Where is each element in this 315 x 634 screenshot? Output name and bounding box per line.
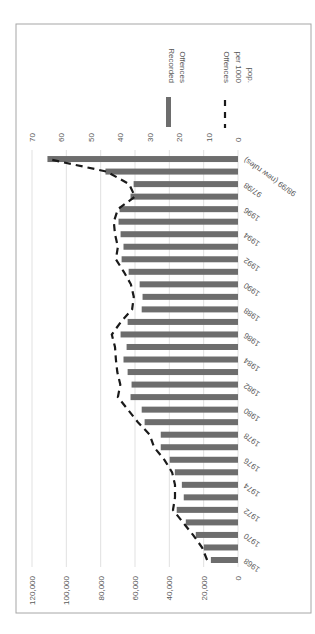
bar [204, 544, 238, 550]
offences-chart: 020,00040,00060,00080,000100,000120,000 … [0, 0, 315, 634]
bar [211, 557, 238, 563]
primary-tick-label: 0 [234, 575, 243, 580]
bar [47, 156, 238, 162]
bar [186, 519, 238, 525]
secondary-tick-label: 20 [175, 133, 184, 142]
legend-line-label-3: pop. [246, 67, 255, 83]
bar [170, 457, 238, 463]
secondary-tick-label: 40 [116, 133, 125, 142]
bar [129, 269, 238, 275]
bar [123, 357, 238, 363]
primary-tick-label: 60,000 [131, 575, 140, 600]
bar [128, 369, 238, 375]
bar [142, 306, 238, 312]
bar [182, 482, 238, 488]
primary-tick-label: 100,000 [62, 575, 71, 604]
bar [175, 469, 238, 475]
bar [184, 494, 238, 500]
bar [127, 344, 238, 350]
bar [122, 256, 238, 262]
bar [119, 219, 238, 225]
bar [121, 231, 238, 237]
legend-line-label-2: per 1000 [234, 51, 243, 83]
bar [196, 532, 238, 538]
bar [143, 294, 238, 300]
bar [134, 181, 238, 187]
bar [132, 382, 238, 388]
chart-frame [16, 24, 311, 613]
legend-bar-swatch [166, 97, 171, 127]
bar [123, 244, 238, 250]
bar [142, 407, 238, 413]
primary-tick-label: 20,000 [200, 575, 209, 600]
secondary-tick-label: 50 [87, 133, 96, 142]
bar [177, 507, 238, 513]
secondary-tick-label: 70 [28, 133, 37, 142]
secondary-tick-label: 30 [146, 133, 155, 142]
secondary-tick-label: 0 [234, 137, 243, 142]
bar [121, 331, 238, 337]
bar [140, 281, 238, 287]
primary-tick-label: 120,000 [28, 575, 37, 604]
legend-bar-label-2: Offences [178, 51, 187, 83]
bar [161, 444, 238, 450]
bar [145, 419, 238, 425]
bar [161, 432, 238, 438]
secondary-tick-label: 10 [205, 133, 214, 142]
legend-line-label-1: Offences [222, 51, 231, 83]
bar [128, 319, 238, 325]
legend-bar-label-1: Recorded [167, 48, 176, 83]
primary-tick-label: 80,000 [97, 575, 106, 600]
bar [131, 194, 238, 200]
bar [120, 206, 238, 212]
bar [131, 394, 238, 400]
primary-tick-label: 40,000 [165, 575, 174, 600]
secondary-tick-label: 60 [57, 133, 66, 142]
bar [105, 169, 238, 175]
